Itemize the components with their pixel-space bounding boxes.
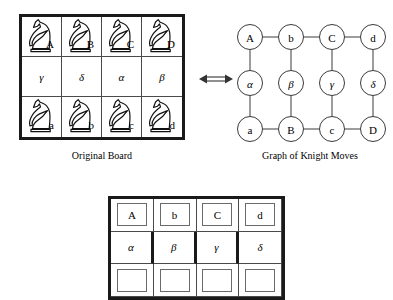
labeled-board-inner-box: C	[202, 203, 232, 226]
labeled-board-cell-δ: δ	[239, 232, 282, 265]
knight-icon: B	[62, 17, 101, 56]
original-board-cell-d: d	[142, 97, 182, 137]
graph-node-c[interactable]: c	[320, 117, 345, 142]
graph-node-gamma[interactable]: γ	[320, 71, 345, 96]
graph-node-b[interactable]: b	[279, 25, 304, 50]
original-board-cell-b: b	[62, 97, 102, 137]
graph-node-beta[interactable]: β	[279, 71, 304, 96]
labeled-board-cell-empty	[111, 264, 154, 297]
graph-node-alpha[interactable]: α	[238, 71, 263, 96]
original-board-cell-δ: δ	[62, 57, 102, 97]
knight-icon: C	[102, 17, 141, 56]
graph-node-label: c	[330, 124, 335, 136]
graph-node-label: δ	[370, 78, 376, 90]
original-board-cell-α: α	[102, 57, 142, 97]
graph-node-B[interactable]: B	[279, 117, 304, 142]
knight-square-label: d	[170, 120, 176, 131]
labeled-board-label: δ	[258, 241, 263, 253]
labeled-board-cell-A: A	[111, 199, 154, 232]
original-board-cell-a: a	[22, 97, 62, 137]
labeled-board-label: γ	[214, 241, 218, 253]
knight-icon: c	[102, 97, 141, 137]
labeled-board-cell-b: b	[154, 199, 197, 232]
knight-square-label: D	[167, 39, 175, 50]
original-board-cell-D: D	[142, 17, 182, 57]
board-square-label: α	[119, 71, 125, 83]
knight-square-label: C	[127, 39, 134, 50]
labeled-board-cell-α: α	[111, 232, 154, 265]
graph-node-label: d	[370, 32, 376, 44]
original-board-cell-A: A	[22, 17, 62, 57]
knight-square-label: a	[49, 120, 54, 131]
equivalence-arrow-icon	[196, 66, 236, 92]
graph-node-A[interactable]: A	[238, 25, 263, 50]
original-board-caption: Original Board	[19, 150, 185, 161]
graph-node-D[interactable]: D	[361, 117, 386, 142]
labeled-board-cell-C: C	[197, 199, 240, 232]
graph-node-label: C	[328, 32, 335, 44]
board-square-label: γ	[39, 71, 43, 83]
original-board-cell-B: B	[62, 17, 102, 57]
labeled-board-inner-box: b	[160, 203, 190, 226]
graph-node-a[interactable]: a	[238, 117, 263, 142]
board-square-label: δ	[79, 71, 84, 83]
knight-square-label: b	[89, 120, 95, 131]
labeled-board-label: β	[171, 241, 176, 253]
graph-node-label: B	[287, 124, 294, 136]
labeled-board: AbCdαβγδ	[108, 196, 285, 300]
labeled-board-inner-box: A	[117, 203, 147, 226]
original-board-cell-C: C	[102, 17, 142, 57]
labeled-board-cell-γ: γ	[197, 232, 240, 265]
labeled-board-inner-box	[117, 269, 147, 292]
graph-node-label: α	[247, 78, 253, 90]
labeled-board-inner-box	[202, 269, 232, 292]
graph-node-C[interactable]: C	[320, 25, 345, 50]
knight-icon: D	[142, 17, 182, 56]
labeled-board-cell-empty	[197, 264, 240, 297]
labeled-board-inner-box: d	[245, 203, 275, 226]
labeled-board-cell-β: β	[154, 232, 197, 265]
graph-node-delta[interactable]: δ	[361, 71, 386, 96]
knight-icon: A	[22, 17, 61, 56]
board-square-label: β	[159, 71, 164, 83]
knight-icon: a	[22, 97, 61, 137]
original-board-cell-γ: γ	[22, 57, 62, 97]
knight-graph-caption: Graph of Knight Moves	[232, 150, 388, 161]
labeled-board-cell-d: d	[239, 199, 282, 232]
labeled-board-inner-box	[245, 269, 275, 292]
knight-icon: b	[62, 97, 101, 137]
graph-node-label: a	[248, 124, 253, 136]
labeled-board-cell-empty	[239, 264, 282, 297]
graph-node-label: b	[288, 32, 294, 44]
original-board-cell-c: c	[102, 97, 142, 137]
graph-node-label: D	[369, 124, 377, 136]
knight-square-label: c	[129, 120, 134, 131]
knight-icon: d	[142, 97, 182, 137]
labeled-board-cell-empty	[154, 264, 197, 297]
graph-edge-layer	[250, 37, 373, 129]
knight-square-label: A	[46, 39, 54, 50]
labeled-board-inner-box	[160, 269, 190, 292]
labeled-board-label: α	[128, 241, 134, 253]
graph-node-label: A	[246, 32, 254, 44]
original-board: ABCDγδαβabcd	[19, 14, 185, 140]
knight-moves-graph: AbCdαβγδaBcD	[232, 20, 390, 146]
graph-node-d[interactable]: d	[361, 25, 386, 50]
original-board-cell-β: β	[142, 57, 182, 97]
graph-node-label: β	[287, 78, 294, 90]
graph-node-label: γ	[330, 78, 335, 90]
knight-square-label: B	[87, 39, 94, 50]
